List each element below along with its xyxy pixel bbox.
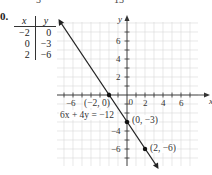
y-tick-label: −4 bbox=[111, 126, 121, 136]
x-tick-label: 6 bbox=[179, 98, 184, 108]
point-label: (2, −6) bbox=[150, 143, 176, 154]
y-tick-label: 6 bbox=[116, 36, 121, 46]
y-tick-label: 2 bbox=[116, 72, 121, 82]
line-arrow-up-icon bbox=[59, 19, 65, 26]
point-marker bbox=[125, 120, 129, 124]
coordinate-graph: y x −6 2 4 6 0 6 4 2 −4 −6 (−2, 0) (0, −… bbox=[0, 0, 212, 175]
point-marker bbox=[107, 93, 111, 97]
equation-label: 6x + 4y = −12 bbox=[60, 110, 114, 120]
y-tick-label: −6 bbox=[111, 144, 121, 154]
y-axis-label: y bbox=[117, 14, 122, 24]
x-tick-label: 2 bbox=[143, 98, 148, 108]
y-axis-arrow-icon bbox=[125, 15, 130, 21]
x-tick-label: −6 bbox=[66, 98, 76, 108]
point-label: (−2, 0) bbox=[84, 98, 110, 109]
x-axis-label: x bbox=[208, 96, 212, 106]
y-tick-label: 4 bbox=[116, 54, 121, 64]
x-tick-label: 4 bbox=[161, 98, 166, 108]
point-label: (0, −3) bbox=[132, 115, 158, 126]
origin-label: 0 bbox=[129, 97, 134, 107]
point-marker bbox=[143, 147, 147, 151]
